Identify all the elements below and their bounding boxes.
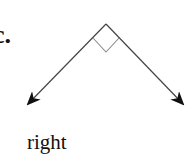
right-ray bbox=[106, 24, 183, 104]
left-ray bbox=[28, 24, 106, 104]
right-angle-marker bbox=[93, 38, 119, 52]
angle-caption: right bbox=[27, 132, 67, 153]
